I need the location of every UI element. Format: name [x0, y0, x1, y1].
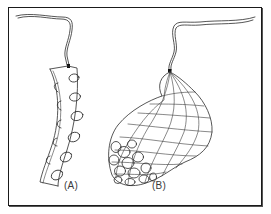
cord-b-icon — [169, 17, 255, 70]
perforated-strip-icon — [40, 66, 84, 186]
cord-a-icon — [16, 14, 72, 65]
drawing-canvas — [0, 0, 271, 214]
net-pouch-icon — [109, 72, 212, 186]
label-b: (B) — [152, 181, 166, 191]
illustration: (A) (B) — [0, 0, 271, 214]
label-a: (A) — [64, 181, 78, 191]
